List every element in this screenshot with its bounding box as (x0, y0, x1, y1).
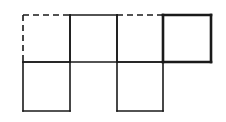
square-top-4 (163, 15, 211, 62)
cube-net-diagram (0, 0, 226, 122)
square-top-2 (70, 15, 117, 62)
square-bottom-3 (117, 62, 163, 111)
square-net (23, 15, 211, 111)
square-top-1 (23, 15, 70, 62)
square-top-3 (117, 15, 163, 62)
square-bottom-1 (23, 62, 70, 111)
